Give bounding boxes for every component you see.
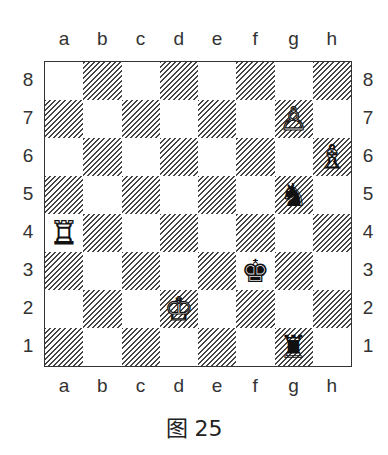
white-rook-icon: ♖ (50, 217, 79, 249)
square-e6 (198, 138, 236, 176)
square-b8 (83, 62, 121, 100)
square-g2 (275, 290, 313, 328)
square-a1 (45, 328, 83, 366)
square-b7 (83, 100, 121, 138)
rank-label-right-5: 5 (358, 175, 378, 213)
square-h3 (313, 252, 351, 290)
rank-label-left-2: 2 (18, 289, 38, 327)
square-h5 (313, 176, 351, 214)
black-rook-icon: ♜ (279, 331, 308, 363)
rank-label-right-1: 1 (358, 327, 378, 365)
square-c4 (122, 214, 160, 252)
square-b4 (83, 214, 121, 252)
file-label-top-b: b (83, 28, 121, 50)
square-h4 (313, 214, 351, 252)
file-label-bottom-f: f (236, 375, 274, 397)
square-d8 (160, 62, 198, 100)
black-rook-g1: ♜ (275, 328, 313, 366)
square-c1 (122, 328, 160, 366)
square-g7: ♙ (275, 100, 313, 138)
square-f7 (236, 100, 274, 138)
square-c2 (122, 290, 160, 328)
rank-label-right-6: 6 (358, 137, 378, 175)
rank-label-right-8: 8 (358, 61, 378, 99)
square-e5 (198, 176, 236, 214)
square-h6: ♗ (313, 138, 351, 176)
white-king-d2: ♔ (160, 290, 198, 328)
square-f8 (236, 62, 274, 100)
figure-caption: 图 25 (0, 410, 388, 442)
rank-label-right-4: 4 (358, 213, 378, 251)
file-label-top-a: a (45, 28, 83, 50)
black-king-icon: ♚ (241, 255, 270, 287)
square-d3 (160, 252, 198, 290)
square-g8 (275, 62, 313, 100)
square-e4 (198, 214, 236, 252)
square-a4: ♖ (45, 214, 83, 252)
white-bishop-icon: ♗ (318, 141, 347, 173)
rank-label-left-5: 5 (18, 175, 38, 213)
square-c5 (122, 176, 160, 214)
file-label-bottom-g: g (275, 375, 313, 397)
square-e7 (198, 100, 236, 138)
square-a7 (45, 100, 83, 138)
file-label-bottom-c: c (122, 375, 160, 397)
square-a8 (45, 62, 83, 100)
square-h7 (313, 100, 351, 138)
file-label-top-c: c (122, 28, 160, 50)
file-label-bottom-e: e (198, 375, 236, 397)
square-a3 (45, 252, 83, 290)
rank-label-left-4: 4 (18, 213, 38, 251)
square-f3: ♚ (236, 252, 274, 290)
white-pawn-g7: ♙ (275, 100, 313, 138)
square-a6 (45, 138, 83, 176)
rank-label-left-1: 1 (18, 327, 38, 365)
rank-label-left-3: 3 (18, 251, 38, 289)
black-king-f3: ♚ (236, 252, 274, 290)
square-g3 (275, 252, 313, 290)
file-label-bottom-d: d (160, 375, 198, 397)
square-e8 (198, 62, 236, 100)
square-d1 (160, 328, 198, 366)
file-label-top-g: g (275, 28, 313, 50)
chess-board: ♖♔♚♙♞♜♗ (44, 61, 352, 367)
square-c8 (122, 62, 160, 100)
square-c7 (122, 100, 160, 138)
white-pawn-icon: ♙ (279, 103, 308, 135)
square-h2 (313, 290, 351, 328)
square-d5 (160, 176, 198, 214)
square-g4 (275, 214, 313, 252)
square-f2 (236, 290, 274, 328)
file-label-top-d: d (160, 28, 198, 50)
square-f5 (236, 176, 274, 214)
square-e3 (198, 252, 236, 290)
square-a5 (45, 176, 83, 214)
square-f4 (236, 214, 274, 252)
rank-label-left-7: 7 (18, 99, 38, 137)
square-e2 (198, 290, 236, 328)
square-d4 (160, 214, 198, 252)
square-h1 (313, 328, 351, 366)
square-d6 (160, 138, 198, 176)
white-king-icon: ♔ (165, 293, 194, 325)
file-label-top-h: h (313, 28, 351, 50)
file-label-top-e: e (198, 28, 236, 50)
square-c6 (122, 138, 160, 176)
black-knight-icon: ♞ (279, 179, 308, 211)
file-label-bottom-b: b (83, 375, 121, 397)
square-h8 (313, 62, 351, 100)
square-b5 (83, 176, 121, 214)
square-g5: ♞ (275, 176, 313, 214)
square-f6 (236, 138, 274, 176)
file-label-bottom-h: h (313, 375, 351, 397)
square-e1 (198, 328, 236, 366)
square-b2 (83, 290, 121, 328)
square-d7 (160, 100, 198, 138)
square-b3 (83, 252, 121, 290)
square-g6 (275, 138, 313, 176)
square-b1 (83, 328, 121, 366)
rank-label-right-2: 2 (358, 289, 378, 327)
square-c3 (122, 252, 160, 290)
square-d2: ♔ (160, 290, 198, 328)
file-label-top-f: f (236, 28, 274, 50)
